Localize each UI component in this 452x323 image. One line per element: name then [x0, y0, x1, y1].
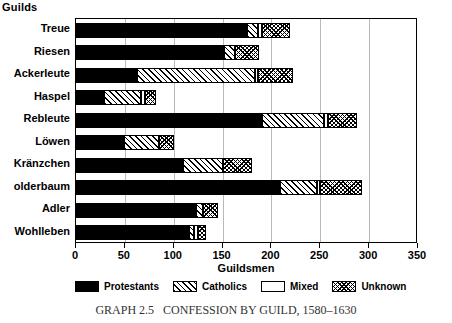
- y-axis-label: Riesen: [34, 45, 70, 57]
- legend-swatch-unknown: [332, 281, 356, 292]
- bar-row: [76, 45, 416, 60]
- bar-segment-protestants: [76, 90, 104, 105]
- y-axis-label: Löwen: [35, 135, 70, 147]
- bar-segment-protestants: [76, 23, 247, 38]
- x-tick-mark: [417, 243, 418, 248]
- x-tick-label: 100: [164, 249, 182, 261]
- y-axis-label: olderbaum: [14, 180, 70, 192]
- stacked-bar[interactable]: [76, 203, 218, 218]
- bar-row: [76, 180, 416, 195]
- bar-segment-catholics: [137, 68, 255, 83]
- x-tick-label: 300: [359, 249, 377, 261]
- x-tick-mark: [173, 243, 174, 248]
- stacked-bar[interactable]: [76, 90, 156, 105]
- bar-row: [76, 158, 416, 173]
- y-axis-label: Treue: [41, 22, 70, 34]
- bar-segment-catholics: [280, 180, 317, 195]
- bar-segment-catholics: [247, 23, 258, 38]
- x-tick-mark: [222, 243, 223, 248]
- plot-area: [75, 18, 417, 243]
- legend-swatch-mixed: [261, 281, 285, 292]
- bar-segment-catholics: [124, 135, 159, 150]
- x-tick-mark: [124, 243, 125, 248]
- y-axis-label: Ackerleute: [14, 67, 70, 79]
- legend-swatch-protestants: [75, 281, 99, 292]
- legend-swatch-catholics: [173, 281, 197, 292]
- legend-item-unknown[interactable]: Unknown: [332, 281, 406, 292]
- bar-segment-unknown: [320, 180, 362, 195]
- stacked-bar[interactable]: [76, 68, 293, 83]
- y-axis-labels: TreueRiesenAckerleuteHaspelRebleuteLöwen…: [0, 18, 73, 243]
- x-tick-mark: [75, 243, 76, 248]
- y-axis-label: Rebleute: [24, 112, 70, 124]
- bar-segment-unknown: [145, 90, 156, 105]
- stacked-bar[interactable]: [76, 225, 206, 240]
- bar-segment-unknown: [258, 68, 293, 83]
- x-tick-label: 200: [261, 249, 279, 261]
- x-tick-mark: [319, 243, 320, 248]
- stacked-bar[interactable]: [76, 135, 174, 150]
- chart-figure: Guilds TreueRiesenAckerleuteHaspelRebleu…: [0, 0, 452, 323]
- bar-segment-catholics: [262, 113, 325, 128]
- bar-row: [76, 203, 416, 218]
- bar-row: [76, 23, 416, 38]
- y-axis-label: Wohlleben: [15, 225, 70, 237]
- bar-segment-catholics: [224, 45, 236, 60]
- bar-segment-protestants: [76, 113, 262, 128]
- bar-segment-unknown: [159, 135, 174, 150]
- bar-row: [76, 225, 416, 240]
- x-tick-label: 150: [212, 249, 230, 261]
- bar-segment-protestants: [76, 135, 124, 150]
- bar-row: [76, 90, 416, 105]
- legend-item-mixed[interactable]: Mixed: [261, 281, 318, 292]
- bar-segment-catholics: [183, 158, 223, 173]
- bar-segment-unknown: [203, 203, 218, 218]
- stacked-bar[interactable]: [76, 23, 290, 38]
- legend-item-catholics[interactable]: Catholics: [173, 281, 247, 292]
- bar-row: [76, 135, 416, 150]
- x-tick-label: 0: [72, 249, 78, 261]
- bar-segment-protestants: [76, 158, 183, 173]
- bar-segment-protestants: [76, 68, 137, 83]
- y-axis-title: Guilds: [2, 1, 37, 13]
- x-tick-mark: [270, 243, 271, 248]
- stacked-bar[interactable]: [76, 45, 259, 60]
- stacked-bar[interactable]: [76, 158, 252, 173]
- bar-segment-protestants: [76, 45, 224, 60]
- bar-segment-unknown: [198, 225, 206, 240]
- x-tick-mark: [368, 243, 369, 248]
- stacked-bar[interactable]: [76, 113, 357, 128]
- legend-label: Unknown: [361, 281, 406, 292]
- stacked-bar[interactable]: [76, 180, 362, 195]
- bar-rows: [76, 19, 416, 242]
- bar-row: [76, 113, 416, 128]
- x-axis-title: Guildsmen: [75, 262, 417, 274]
- bar-segment-unknown: [223, 158, 252, 173]
- bar-segment-catholics: [196, 203, 203, 218]
- chart-legend: ProtestantsCatholicsMixedUnknown: [75, 279, 427, 294]
- y-axis-label: Adler: [42, 202, 70, 214]
- bar-segment-unknown: [328, 113, 357, 128]
- x-tick-label: 250: [310, 249, 328, 261]
- bar-segment-unknown: [235, 45, 258, 60]
- bar-row: [76, 68, 416, 83]
- bar-segment-protestants: [76, 225, 189, 240]
- legend-label: Protestants: [104, 281, 159, 292]
- legend-item-protestants[interactable]: Protestants: [75, 281, 159, 292]
- legend-label: Catholics: [202, 281, 247, 292]
- x-tick-label: 50: [118, 249, 130, 261]
- bar-segment-unknown: [262, 23, 290, 38]
- y-axis-label: Haspel: [34, 90, 70, 102]
- x-tick-label: 350: [408, 249, 426, 261]
- bar-segment-protestants: [76, 180, 280, 195]
- bar-segment-catholics: [104, 90, 141, 105]
- bar-segment-protestants: [76, 203, 196, 218]
- legend-label: Mixed: [290, 281, 318, 292]
- figure-caption: GRAPH 2.5 CONFESSION BY GUILD, 1580–1630: [0, 303, 452, 318]
- y-axis-label: Kränzchen: [14, 157, 70, 169]
